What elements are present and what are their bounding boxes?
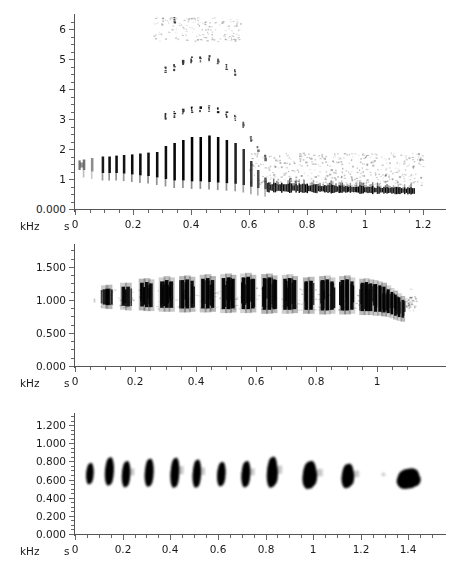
x-tick-label: 0.4	[171, 219, 211, 229]
x-tick-label: 1	[345, 219, 385, 229]
y-tick-label: 0.000	[0, 529, 66, 539]
x-tick-label: 1.4	[388, 544, 428, 554]
y-unit-label-1: kHz	[20, 221, 40, 231]
x-tick-minor	[373, 535, 374, 538]
x-tick-minor	[194, 535, 195, 538]
x-tick-minor	[87, 535, 88, 538]
x-tick-label: 0.2	[113, 219, 153, 229]
y-tick-minor	[71, 358, 74, 359]
y-tick-minor	[71, 520, 74, 521]
y-tick-minor	[71, 172, 74, 173]
x-tick-minor	[181, 367, 182, 370]
x-tick-major	[316, 367, 317, 372]
y-tick-minor	[71, 194, 74, 195]
y-tick-minor	[71, 44, 74, 45]
y-axis-line-1	[74, 14, 75, 212]
x-tick-minor	[432, 535, 433, 538]
y-tick-minor	[71, 452, 74, 453]
y-tick-label: 1	[0, 174, 66, 184]
y-tick-label: 0.500	[0, 328, 66, 338]
y-tick-label: 6	[0, 24, 66, 34]
x-axis-line-1	[74, 209, 446, 210]
x-tick-minor	[111, 535, 112, 538]
y-tick-minor	[71, 507, 74, 508]
y-tick-major	[69, 149, 74, 150]
y-tick-major	[69, 333, 74, 334]
y-tick-minor	[71, 283, 74, 284]
x-tick-minor	[148, 210, 149, 213]
y-tick-minor	[71, 134, 74, 135]
x-tick-major	[313, 535, 314, 540]
y-tick-major	[69, 498, 74, 499]
spectrogram-image-3	[75, 416, 437, 534]
plot-area-2	[75, 247, 419, 366]
x-tick-minor	[277, 535, 278, 538]
y-tick-minor	[71, 250, 74, 251]
y-tick-label: 2	[0, 144, 66, 154]
x-tick-minor	[286, 367, 287, 370]
x-tick-major	[191, 210, 192, 215]
y-tick-label: 0.800	[0, 456, 66, 466]
x-tick-major	[249, 210, 250, 215]
y-tick-label: 0.600	[0, 475, 66, 485]
y-tick-label: 1.000	[0, 438, 66, 448]
x-tick-minor	[146, 535, 147, 538]
x-tick-major	[377, 367, 378, 372]
x-tick-label: 0.4	[150, 544, 190, 554]
x-tick-minor	[211, 367, 212, 370]
y-tick-minor	[71, 457, 74, 458]
spectrogram-panel-3: 0.0000.2000.4000.6000.8001.0001.200 00.2…	[0, 408, 461, 578]
x-tick-minor	[392, 367, 393, 370]
y-tick-minor	[71, 67, 74, 68]
y-tick-major	[69, 179, 74, 180]
x-tick-major	[256, 367, 257, 372]
y-tick-label: 0.000	[0, 204, 66, 214]
y-tick-label: 1.200	[0, 420, 66, 430]
x-tick-major	[75, 367, 76, 372]
x-tick-minor	[135, 535, 136, 538]
x-tick-minor	[397, 535, 398, 538]
y-tick-major	[69, 516, 74, 517]
x-tick-minor	[105, 367, 106, 370]
x-tick-minor	[351, 210, 352, 213]
y-tick-minor	[71, 112, 74, 113]
y-tick-minor	[71, 325, 74, 326]
y-tick-major	[69, 29, 74, 30]
x-tick-minor	[337, 535, 338, 538]
y-tick-minor	[71, 52, 74, 53]
x-tick-minor	[271, 367, 272, 370]
x-tick-minor	[407, 367, 408, 370]
y-tick-minor	[71, 316, 74, 317]
y-tick-minor	[71, 22, 74, 23]
x-tick-major	[75, 210, 76, 215]
x-tick-minor	[264, 210, 265, 213]
x-tick-minor	[380, 210, 381, 213]
y-tick-minor	[71, 164, 74, 165]
spectrogram-figure: 0.000123456 00.20.40.60.811.2 kHz s 0.00…	[0, 0, 461, 578]
y-tick-label: 1.500	[0, 262, 66, 272]
x-tick-major	[218, 535, 219, 540]
y-tick-major	[69, 461, 74, 462]
y-tick-label: 3	[0, 114, 66, 124]
y-tick-minor	[71, 127, 74, 128]
y-tick-label: 1.000	[0, 295, 66, 305]
x-tick-label: 0.6	[229, 219, 269, 229]
spectrogram-panel-1: 0.000123456 00.20.40.60.811.2 kHz s	[0, 0, 461, 240]
x-tick-minor	[104, 210, 105, 213]
y-tick-major	[69, 209, 74, 210]
x-tick-minor	[278, 210, 279, 213]
x-tick-major	[307, 210, 308, 215]
y-tick-major	[69, 89, 74, 90]
y-unit-label-3: kHz	[20, 546, 40, 556]
y-tick-major	[69, 59, 74, 60]
x-tick-label: 0.6	[236, 376, 276, 386]
x-tick-minor	[90, 210, 91, 213]
x-tick-minor	[120, 367, 121, 370]
x-tick-minor	[150, 367, 151, 370]
x-unit-label-1: s	[64, 221, 69, 231]
y-tick-minor	[71, 157, 74, 158]
y-tick-minor	[71, 439, 74, 440]
y-tick-label: 5	[0, 54, 66, 64]
x-tick-minor	[409, 210, 410, 213]
x-tick-major	[408, 535, 409, 540]
